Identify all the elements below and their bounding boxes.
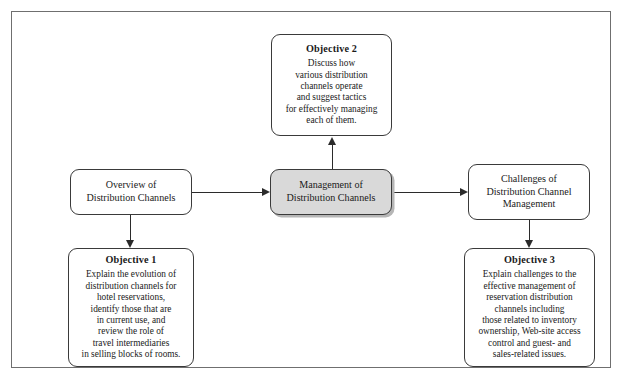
node-objective-3: Objective 3 Explain challenges to the ef… bbox=[464, 248, 595, 367]
objective-3-body: Explain challenges to the effective mana… bbox=[478, 269, 580, 361]
node-management-of-distribution-channels: Management of Distribution Channels bbox=[270, 169, 392, 215]
arrowhead-right-overview-to-management bbox=[262, 188, 270, 196]
objective-2-title: Objective 2 bbox=[306, 43, 357, 55]
connector-challenges-to-objective-3 bbox=[529, 220, 530, 241]
node-objective-2: Objective 2 Discuss how various distribu… bbox=[271, 34, 392, 136]
node-objective-1: Objective 1 Explain the evolution of dis… bbox=[68, 248, 194, 367]
arrowhead-up-management-to-objective-2 bbox=[328, 137, 336, 145]
arrowhead-down-challenges-to-objective-3 bbox=[525, 240, 533, 248]
node-overview-of-distribution-channels: Overview of Distribution Channels bbox=[70, 169, 192, 215]
arrowhead-down-overview-to-objective-1 bbox=[126, 240, 134, 248]
connector-management-to-challenges bbox=[392, 192, 460, 193]
diagram-canvas: Objective 2 Discuss how various distribu… bbox=[0, 0, 624, 383]
objective-1-title: Objective 1 bbox=[105, 254, 156, 266]
management-label: Management of Distribution Channels bbox=[287, 179, 376, 205]
connector-overview-to-management bbox=[192, 192, 262, 193]
objective-2-body: Discuss how various distribution channel… bbox=[286, 58, 378, 127]
diagram-outer-frame: Objective 2 Discuss how various distribu… bbox=[11, 11, 611, 368]
node-challenges-of-distribution-channel-management: Challenges of Distribution Channel Manag… bbox=[468, 164, 590, 220]
challenges-label: Challenges of Distribution Channel Manag… bbox=[487, 173, 572, 212]
connector-management-to-objective-2 bbox=[332, 144, 333, 169]
objective-3-title: Objective 3 bbox=[504, 254, 555, 266]
arrowhead-right-management-to-challenges bbox=[460, 188, 468, 196]
overview-label: Overview of Distribution Channels bbox=[87, 179, 176, 205]
connector-overview-to-objective-1 bbox=[130, 215, 131, 241]
objective-1-body: Explain the evolution of distribution ch… bbox=[82, 269, 181, 361]
